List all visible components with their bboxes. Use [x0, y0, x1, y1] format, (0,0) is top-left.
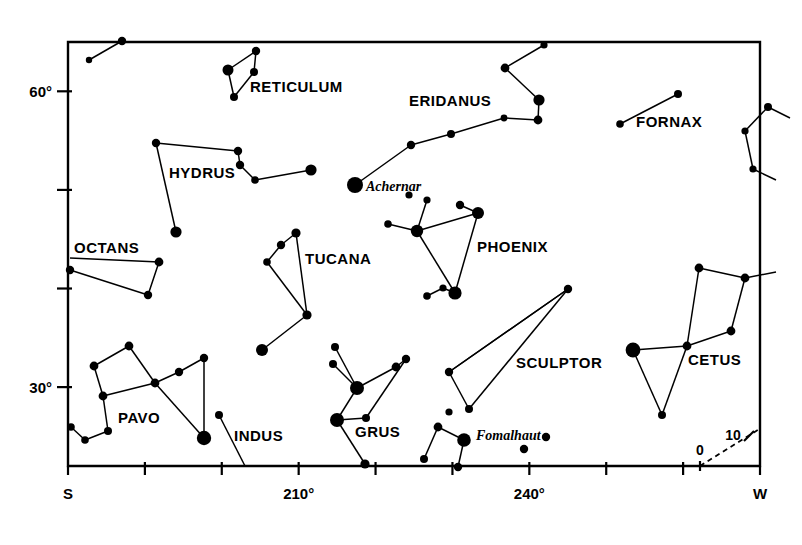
star-marker: [252, 47, 260, 55]
star-marker: [256, 344, 268, 356]
star-marker: [501, 64, 510, 73]
constellation-line: [156, 143, 176, 232]
x-tick-label: S: [63, 485, 73, 502]
constellation-line: [417, 231, 455, 293]
ecliptic-ten-label: 10: [725, 427, 741, 443]
star-marker: [291, 228, 300, 237]
star-marker: [144, 291, 152, 299]
star-marker: [520, 445, 528, 453]
star-marker: [305, 164, 316, 175]
star-chart: RETICULUMHYDRUSERIDANUSFORNAXOCTANSTUCAN…: [0, 0, 802, 545]
constellation-line: [449, 372, 469, 409]
star-marker: [250, 68, 258, 76]
star-marker: [118, 37, 126, 45]
star-marker: [411, 225, 423, 237]
star-marker: [251, 176, 259, 184]
star-marker: [683, 342, 692, 351]
star-marker: [542, 433, 550, 441]
star-marker: [236, 161, 244, 169]
map-text-labels: RETICULUMHYDRUSERIDANUSFORNAXOCTANSTUCAN…: [29, 78, 768, 502]
star-marker: [175, 368, 183, 376]
star-marker: [727, 327, 736, 336]
x-tick-label: 240°: [514, 485, 545, 502]
star-marker: [447, 130, 455, 138]
constellation-line: [89, 41, 122, 60]
star-marker: [439, 284, 446, 291]
constellation-label-grus: GRUS: [355, 423, 400, 440]
star-marker: [152, 139, 160, 147]
constellation-label-eridanus: ERIDANUS: [409, 92, 491, 109]
constellation-label-cetus: CETUS: [688, 351, 741, 368]
star-marker: [402, 355, 410, 363]
constellation-line: [451, 118, 504, 134]
star-marker: [534, 116, 543, 125]
star-marker: [501, 115, 508, 122]
constellation-label-sculptor: SCULPTOR: [516, 354, 602, 371]
star-marker: [448, 286, 461, 299]
star-marker: [223, 65, 234, 76]
star-marker: [331, 343, 339, 351]
star-marker: [90, 362, 99, 371]
constellation-line: [103, 383, 155, 396]
star-marker: [658, 411, 666, 419]
star-marker: [125, 342, 134, 351]
star-marker: [764, 103, 772, 111]
star-marker: [472, 207, 484, 219]
constellation-line: [94, 346, 129, 366]
star-marker: [230, 93, 238, 101]
constellation-line: [255, 170, 311, 180]
ecliptic-zero-label: 0: [696, 442, 704, 458]
constellation-line: [745, 131, 753, 169]
constellation-line: [687, 268, 699, 346]
star-marker: [86, 57, 92, 63]
constellation-line: [94, 366, 103, 396]
constellation-label-pavo: PAVO: [118, 409, 160, 426]
star-marker: [465, 405, 473, 413]
constellation-line: [103, 396, 108, 431]
star-marker: [741, 127, 748, 134]
star-marker: [200, 354, 208, 362]
constellation-line: [633, 346, 687, 350]
star-marker: [234, 147, 242, 155]
y-tick-label: 60°: [29, 83, 52, 100]
star-marker: [67, 423, 75, 431]
star-marker: [456, 201, 464, 209]
star-marker: [674, 90, 682, 98]
constellation-line: [156, 143, 238, 151]
star-marker: [457, 433, 471, 447]
star-marker: [749, 165, 756, 172]
constellation-line: [469, 289, 568, 409]
constellation-label-tucana: TUCANA: [305, 250, 371, 267]
constellation-line: [417, 213, 478, 231]
constellation-label-hydrus: HYDRUS: [169, 164, 235, 181]
constellation-line: [745, 107, 768, 131]
star-marker: [104, 427, 112, 435]
star-marker: [392, 363, 401, 372]
star-marker: [564, 285, 572, 293]
constellation-line: [262, 315, 307, 350]
star-marker: [66, 266, 74, 274]
star-marker: [347, 177, 363, 193]
constellation-line: [687, 331, 731, 346]
constellation-line: [424, 427, 438, 459]
star-marker: [741, 274, 750, 283]
star-marker: [423, 292, 431, 300]
star-marker: [155, 258, 164, 267]
constellation-line: [179, 358, 204, 372]
constellation-label-indus: INDUS: [234, 427, 283, 444]
star-name-achernar: Achernar: [365, 179, 422, 194]
constellation-line: [155, 383, 204, 438]
star-marker: [99, 392, 108, 401]
star-marker: [434, 423, 443, 432]
constellation-line: [505, 45, 544, 68]
star-marker: [695, 264, 704, 273]
star-marker: [423, 196, 430, 203]
star-marker: [302, 310, 311, 319]
star-marker: [445, 408, 452, 415]
x-tick-label: W: [753, 485, 768, 502]
axis-ticks: [57, 91, 760, 475]
star-marker: [533, 94, 544, 105]
star-marker: [277, 241, 285, 249]
octans-leader-line: [70, 258, 159, 262]
constellation-label-octans: OCTANS: [74, 239, 139, 256]
